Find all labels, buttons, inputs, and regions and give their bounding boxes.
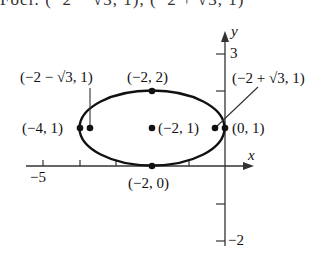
x-axis-label: x [248, 148, 255, 163]
label-center: (−2, 1) [158, 121, 199, 136]
point-right-vertex [222, 125, 229, 132]
label-bottom-covertex: (−2, 0) [128, 176, 169, 191]
point-right-focus [212, 125, 219, 132]
point-left-vertex [77, 125, 84, 132]
point-bottom-covertex [149, 163, 156, 170]
label-left-vertex: (−4, 1) [22, 121, 63, 136]
label-right-vertex: (0, 1) [232, 121, 265, 136]
label-top-covertex: (−2, 2) [127, 70, 168, 85]
x-tick-label-neg5: −5 [30, 170, 46, 185]
y-tick-label-3: 3 [230, 46, 238, 61]
label-left-focus: (−2 − √3, 1) [20, 70, 93, 85]
y-axis-arrow-icon [221, 31, 229, 42]
point-center [149, 125, 156, 132]
y-tick-label-neg2: −2 [228, 233, 244, 248]
point-top-covertex [149, 88, 156, 95]
x-axis-arrow-icon [243, 162, 254, 170]
y-ticks [216, 54, 225, 241]
y-axis-label: y [231, 24, 238, 39]
point-left-focus [87, 125, 94, 132]
points [77, 88, 229, 170]
label-right-focus: (−2 + √3, 1) [232, 71, 305, 86]
